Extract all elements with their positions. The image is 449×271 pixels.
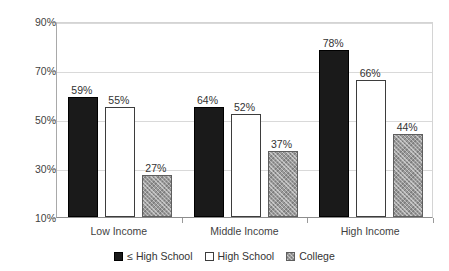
bar (194, 107, 224, 217)
x-axis-category-label: Low Income (56, 225, 182, 237)
x-axis-tick-mark (182, 218, 183, 223)
x-axis-tick-mark (307, 218, 308, 223)
legend-swatch-icon (205, 252, 214, 261)
legend-item: ≤ High School (114, 250, 192, 262)
y-axis-tick-label: 30% (12, 164, 56, 175)
bar (142, 175, 172, 217)
bar-value-label: 27% (135, 163, 177, 174)
legend-swatch-icon (286, 252, 295, 261)
y-axis-tick-mark (51, 218, 56, 219)
gridline (57, 23, 432, 24)
y-axis-tick-label: 70% (12, 66, 56, 77)
plot-area (56, 22, 433, 218)
bar (105, 107, 135, 217)
bar-value-label: 66% (349, 68, 391, 79)
x-axis-tick-mark (433, 218, 434, 223)
bar (231, 114, 261, 217)
bar-value-label: 37% (261, 139, 303, 150)
bar-value-label: 64% (187, 95, 229, 106)
y-axis-tick-label: 90% (12, 17, 56, 28)
bar (356, 80, 386, 217)
bar (319, 50, 349, 217)
legend-swatch-icon (114, 252, 123, 261)
bar-value-label: 44% (386, 122, 428, 133)
bar (393, 134, 423, 217)
bar-value-label: 52% (224, 102, 266, 113)
legend-item: College (286, 250, 335, 262)
chart-legend: ≤ High SchoolHigh SchoolCollege (0, 250, 449, 262)
y-axis-tick-label: 50% (12, 115, 56, 126)
x-axis-category-label: Middle Income (182, 225, 308, 237)
legend-label: High School (218, 250, 275, 262)
legend-item: High School (205, 250, 275, 262)
bar-chart: 90%70%50%30%10% Low IncomeMiddle IncomeH… (0, 0, 449, 271)
legend-label: College (299, 250, 335, 262)
y-axis-tick-label: 10% (12, 213, 56, 224)
bar (68, 97, 98, 217)
x-axis-category-label: High Income (307, 225, 433, 237)
y-axis: 90%70%50%30%10% (0, 0, 56, 271)
legend-label: ≤ High School (127, 250, 192, 262)
bar-value-label: 59% (61, 85, 103, 96)
bar-value-label: 55% (98, 95, 140, 106)
bar (268, 151, 298, 217)
bar-value-label: 78% (312, 38, 354, 49)
